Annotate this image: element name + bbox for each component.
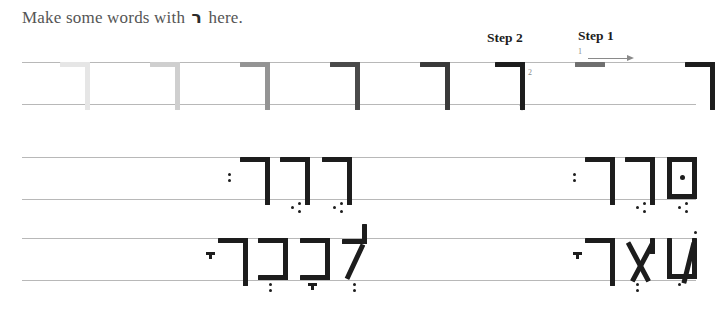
nikud-dot <box>269 289 272 292</box>
nikud-kamatz-tail <box>311 285 314 290</box>
stroke-descender <box>243 238 248 286</box>
stroke-descender <box>610 157 615 205</box>
nikud-dot <box>636 283 639 286</box>
arrow-right-icon <box>588 55 634 62</box>
stroke-right-arm <box>692 238 697 278</box>
stroke-descender <box>265 157 270 205</box>
stroke-descender <box>85 62 90 110</box>
word-letter-ayin[interactable] <box>625 238 659 290</box>
nikud-kamatz-tail <box>576 254 579 259</box>
stroke-descender <box>650 157 655 205</box>
nikud-dot <box>678 206 681 209</box>
dagesh-dot <box>680 175 685 180</box>
hebrew-handwriting-worksheet: Make some words with ר here. Step 2 Step… <box>0 0 717 312</box>
stroke-roof <box>342 239 367 244</box>
stroke-left <box>667 157 672 199</box>
word-letter-shin[interactable] <box>667 238 701 290</box>
practice-row-1[interactable] <box>22 62 696 104</box>
page-title-suffix: here. <box>208 8 243 27</box>
step-1-number: 1 <box>578 47 582 56</box>
nikud-dot <box>228 179 231 182</box>
stroke-descender <box>347 157 352 205</box>
word-letter-resh[interactable] <box>585 238 619 290</box>
stroke-left-arm <box>667 238 672 278</box>
word-letter-kaf[interactable] <box>258 238 292 290</box>
stroke-foot <box>667 194 697 199</box>
stroke-descender <box>710 62 715 110</box>
nikud-dot <box>333 206 336 209</box>
stroke-right <box>692 157 697 199</box>
shin-dot <box>694 231 697 234</box>
stroke-descender <box>265 62 270 110</box>
word-letter-resh[interactable] <box>585 157 619 209</box>
trace-letter-resh[interactable] <box>495 62 529 114</box>
nikud-dot <box>298 210 301 213</box>
nikud-dot <box>269 283 272 286</box>
nikud-dot <box>636 206 639 209</box>
word-letter-resh[interactable] <box>280 157 314 209</box>
trace-letter-resh[interactable] <box>240 62 274 114</box>
nikud-dot <box>685 210 688 213</box>
practice-row-3[interactable] <box>22 238 696 280</box>
nikud-dot <box>573 173 576 176</box>
trace-letter-resh[interactable] <box>60 62 94 114</box>
stroke-descender <box>283 238 288 280</box>
trace-letter-resh[interactable] <box>150 62 184 114</box>
word-letter-resh[interactable] <box>625 157 659 209</box>
stroke-foot <box>667 274 697 279</box>
stroke-foot <box>300 275 330 280</box>
nikud-dot <box>636 289 639 292</box>
stroke-descender <box>520 62 525 110</box>
trace-letter-resh[interactable] <box>420 62 454 114</box>
nikud-dot <box>678 283 681 286</box>
page-title-prefix: Make some words with <box>22 8 185 27</box>
stroke-diagonal <box>345 243 366 280</box>
nikud-dot <box>685 202 688 205</box>
stroke-descender <box>650 238 655 254</box>
word-letter-resh[interactable] <box>322 157 356 209</box>
word-letter-resh[interactable] <box>218 238 252 290</box>
step-2-label: Step 2 <box>487 30 523 46</box>
nikud-dot <box>643 210 646 213</box>
stroke-foot <box>258 275 288 280</box>
word-letter-kaf[interactable] <box>300 238 334 290</box>
stroke-descender <box>305 157 310 205</box>
step-1-label: Step 1 <box>578 28 614 44</box>
nikud-kamatz-tail <box>209 254 212 259</box>
nikud-dot <box>291 206 294 209</box>
nikud-dot <box>298 202 301 205</box>
stroke-descender <box>355 62 360 110</box>
stroke-descender <box>445 62 450 110</box>
stroke-descender <box>175 62 180 110</box>
nikud-dot <box>340 210 343 213</box>
word-letter-lamed[interactable] <box>342 238 376 290</box>
nikud-dot <box>228 173 231 176</box>
stroke-descender <box>610 238 615 286</box>
nikud-dot <box>353 283 356 286</box>
stroke-descender <box>325 238 330 280</box>
nikud-dot <box>643 202 646 205</box>
trace-letter-resh[interactable] <box>685 62 717 114</box>
word-letter-final-mem[interactable] <box>667 157 701 209</box>
hebrew-letter-resh-glyph: ר <box>190 7 204 27</box>
trace-letter-resh[interactable] <box>330 62 364 114</box>
nikud-dot <box>340 202 343 205</box>
nikud-dot <box>353 289 356 292</box>
word-letter-resh[interactable] <box>240 157 274 209</box>
practice-row-2[interactable] <box>22 157 696 199</box>
nikud-dot <box>573 179 576 182</box>
step-1-demo-stroke <box>575 62 605 67</box>
page-title: Make some words with ר here. <box>22 7 243 28</box>
